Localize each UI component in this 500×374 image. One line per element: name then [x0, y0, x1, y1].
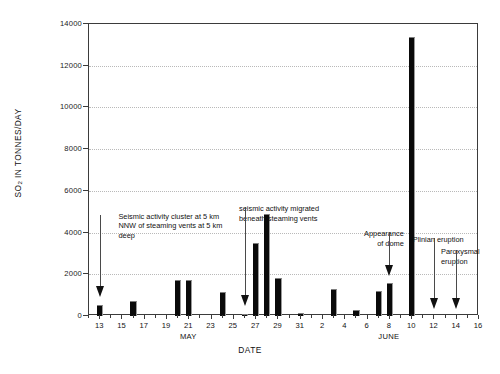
- bar: [130, 301, 136, 316]
- y-axis-tick-label: 10000: [60, 102, 82, 111]
- x-axis-tick-mark: [144, 315, 145, 319]
- x-axis-tick-mark: [300, 315, 301, 319]
- x-axis-tick-mark: [478, 315, 479, 319]
- arrow-head: [452, 298, 460, 309]
- bar: [376, 291, 382, 316]
- y-axis-tick-mark: [83, 106, 88, 107]
- x-axis-tick-label: 13: [95, 321, 103, 330]
- annotation-arrow-paroxysmal-eruption: [452, 250, 461, 309]
- x-axis-tick-mark: [233, 315, 234, 319]
- annotation-arrow-plinian-eruption: [430, 238, 439, 309]
- bar: [175, 280, 181, 317]
- x-axis-tick-mark: [255, 315, 256, 319]
- x-axis-tick-mark: [121, 315, 122, 319]
- y-axis-tick-mark: [83, 273, 88, 274]
- x-axis-tick-label: 15: [117, 321, 125, 330]
- gridline: [89, 149, 477, 150]
- arrow-shaft: [100, 215, 101, 287]
- x-axis-tick-mark: [88, 315, 89, 318]
- bar: [298, 313, 304, 316]
- y-axis-tick-mark: [83, 190, 88, 191]
- annotation-arrow-seismic-migrated: [241, 207, 250, 305]
- month-label: JUNE: [378, 332, 399, 341]
- y-axis-tick-label: 8000: [64, 144, 82, 153]
- x-axis-tick-mark: [211, 315, 212, 319]
- bar: [353, 310, 359, 316]
- x-axis-tick-mark: [199, 315, 200, 318]
- x-axis-tick-mark: [244, 315, 245, 318]
- arrow-shaft: [434, 238, 435, 298]
- y-axis-title: SO2 IN TONNES/DAY: [13, 73, 23, 233]
- annotation-label-dome-appearance: Appearance of dome: [352, 229, 404, 248]
- arrow-head: [430, 298, 438, 309]
- x-axis-tick-mark: [433, 315, 434, 319]
- x-axis-tick-label: 17: [139, 321, 147, 330]
- bar: [331, 289, 337, 316]
- x-axis-tick-label: 16: [474, 321, 482, 330]
- x-axis-tick-mark: [133, 315, 134, 318]
- annotation-arrow-dome-appearance: [385, 232, 394, 276]
- x-axis-tick-mark: [177, 315, 178, 318]
- x-axis-tick-mark: [166, 315, 167, 319]
- x-axis-tick-label: 29: [273, 321, 281, 330]
- x-axis-tick-label: 25: [229, 321, 237, 330]
- y-axis-title-subscript: 2: [16, 181, 23, 185]
- x-axis-tick-mark: [222, 315, 223, 318]
- bar: [409, 37, 415, 316]
- bar: [275, 278, 281, 316]
- y-axis-tick-label: 14000: [60, 19, 82, 28]
- arrow-head: [385, 265, 393, 276]
- bar: [220, 292, 226, 316]
- y-axis-tick-mark: [83, 148, 88, 149]
- x-axis-tick-mark: [289, 315, 290, 318]
- x-axis-tick-label: 4: [342, 321, 346, 330]
- x-axis-tick-label: 27: [251, 321, 259, 330]
- month-label: MAY: [180, 332, 197, 341]
- bar: [387, 283, 393, 316]
- x-axis-tick-label: 31: [295, 321, 303, 330]
- annotation-label-paroxysmal-eruption: Paroxysmal eruption: [441, 247, 493, 266]
- annotation-label-seismic-migrated: seismic activity migrated beneath steami…: [239, 204, 319, 223]
- x-axis-tick-mark: [445, 315, 446, 318]
- gridline: [89, 191, 477, 192]
- arrow-head: [96, 286, 104, 297]
- x-axis-title: DATE: [0, 345, 500, 355]
- y-axis-title-prefix: SO: [13, 185, 23, 198]
- x-axis-tick-mark: [311, 315, 312, 318]
- annotation-arrow-seismic-cluster: [96, 215, 105, 298]
- annotation-label-seismic-cluster: Seismic activity cluster at 5 km NNW of …: [118, 212, 222, 240]
- y-axis-tick-label: 4000: [64, 227, 82, 236]
- y-axis-tick-mark: [83, 232, 88, 233]
- x-axis-tick-mark: [389, 315, 390, 319]
- gridline: [89, 274, 477, 275]
- x-axis-tick-label: 6: [364, 321, 368, 330]
- x-axis-tick-mark: [411, 315, 412, 319]
- x-axis-tick-mark: [277, 315, 278, 319]
- x-axis-tick-label: 19: [162, 321, 170, 330]
- arrow-head: [241, 295, 249, 306]
- x-axis-tick-mark: [110, 315, 111, 318]
- x-axis-tick-mark: [99, 315, 100, 319]
- y-axis-title-suffix: IN TONNES/DAY: [13, 109, 23, 181]
- x-axis-tick-label: 12: [429, 321, 437, 330]
- y-axis-tick-mark: [83, 23, 88, 24]
- arrow-shaft: [245, 207, 246, 294]
- x-axis-tick-mark: [378, 315, 379, 318]
- x-axis-tick-mark: [422, 315, 423, 318]
- x-axis-tick-label: 8: [387, 321, 391, 330]
- bar: [186, 280, 192, 317]
- x-axis-tick-mark: [266, 315, 267, 318]
- bar: [264, 214, 270, 316]
- x-axis-tick-label: 2: [320, 321, 324, 330]
- gridline: [89, 66, 477, 67]
- x-axis-tick-label: 14: [451, 321, 459, 330]
- x-axis-tick-mark: [188, 315, 189, 319]
- x-axis-tick-mark: [155, 315, 156, 318]
- y-axis-tick-label: 2000: [64, 269, 82, 278]
- so2-emission-chart: SO2 IN TONNES/DAY Seismic activity clust…: [0, 0, 500, 374]
- arrow-shaft: [389, 232, 390, 265]
- plot-area: Seismic activity cluster at 5 km NNW of …: [88, 23, 478, 315]
- x-axis-tick-mark: [467, 315, 468, 318]
- y-axis-tick-label: 12000: [60, 60, 82, 69]
- x-axis-tick-label: 23: [206, 321, 214, 330]
